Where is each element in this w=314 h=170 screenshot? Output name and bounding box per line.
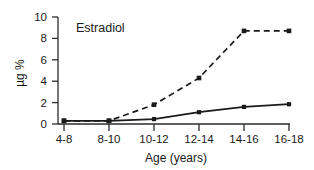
- estradiol-line-chart: 0 2 4 6 8 10 4-8 8-10 10-12 12-14 14-16 …: [0, 0, 314, 170]
- data-point-marker: [287, 102, 291, 106]
- data-point-marker: [152, 117, 156, 121]
- x-tick-label: 12-14: [184, 133, 214, 145]
- data-point-marker: [152, 102, 157, 107]
- data-point-marker: [107, 119, 112, 124]
- x-tick-label: 4-8: [56, 133, 73, 145]
- y-tick-label: 6: [41, 54, 47, 66]
- y-tick-label: 2: [41, 97, 47, 109]
- data-point-marker: [242, 105, 246, 109]
- x-tick-label: 8-10: [97, 133, 120, 145]
- y-tick-label: 8: [41, 32, 47, 44]
- data-point-marker: [197, 76, 202, 81]
- y-tick-label: 10: [34, 11, 47, 23]
- y-tick-label: 0: [41, 118, 47, 130]
- y-tick-label: 4: [41, 75, 48, 87]
- chart-figure: 0 2 4 6 8 10 4-8 8-10 10-12 12-14 14-16 …: [0, 0, 314, 170]
- x-axis-title: Age (years): [145, 151, 207, 165]
- data-point-marker: [62, 119, 67, 124]
- data-point-marker: [242, 29, 247, 34]
- data-point-marker: [197, 110, 201, 114]
- y-axis-title: µg %: [13, 59, 27, 87]
- x-tick-label: 14-16: [229, 133, 258, 145]
- x-tick-label: 10-12: [139, 133, 168, 145]
- data-point-marker: [287, 29, 292, 34]
- plot-title: Estradiol: [76, 21, 125, 35]
- x-tick-label: 16-18: [274, 133, 303, 145]
